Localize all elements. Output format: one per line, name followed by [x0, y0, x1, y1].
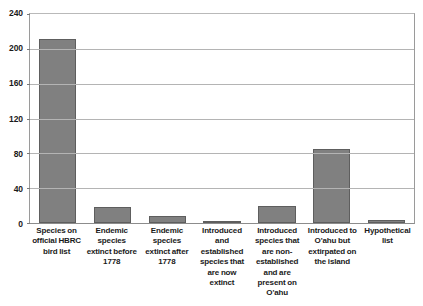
- bar: [149, 216, 186, 223]
- bar: [313, 149, 350, 223]
- y-axis-tick-label: 80: [14, 149, 23, 158]
- y-axis: 04080120160200240: [0, 13, 26, 224]
- gridline: [30, 84, 414, 85]
- y-axis-tick-label: 40: [14, 185, 23, 194]
- category-label: Endemic species extinct before 1778: [84, 226, 139, 268]
- bar: [203, 221, 240, 223]
- category-label: Hypothetical list: [360, 226, 415, 247]
- category-axis-labels: Species on official HBRC bird listEndemi…: [29, 226, 415, 306]
- y-axis-tick-label: 160: [9, 79, 23, 88]
- y-axis-tick-label: 240: [9, 9, 23, 18]
- category-label: Endemic species extinct after 1778: [139, 226, 194, 268]
- bar: [39, 39, 76, 223]
- y-axis-tick-label: 0: [18, 220, 23, 229]
- bar: [94, 207, 131, 223]
- plot-area: [29, 13, 415, 224]
- y-axis-tick-label: 200: [9, 44, 23, 53]
- gridline: [30, 188, 414, 189]
- bar: [258, 206, 295, 223]
- y-axis-tickmark: [27, 14, 30, 15]
- bar: [368, 220, 405, 223]
- y-axis-tick-label: 120: [9, 114, 23, 123]
- category-label: Introduced and established species that …: [194, 226, 249, 288]
- category-label: Introduced species that are non-establis…: [250, 226, 305, 299]
- category-label: Species on official HBRC bird list: [29, 226, 84, 257]
- gridline: [30, 49, 414, 50]
- gridline: [30, 153, 414, 154]
- category-label: Introduced to O'ahu but extirpated on th…: [305, 226, 360, 268]
- y-axis-tickmark: [27, 223, 30, 224]
- gridline: [30, 119, 414, 120]
- bar-chart: 04080120160200240 Species on official HB…: [0, 0, 423, 306]
